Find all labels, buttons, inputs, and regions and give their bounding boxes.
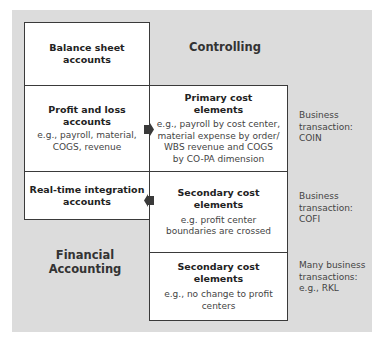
side-note-coin-line-2: transaction: (299, 122, 353, 134)
side-note-coin: Business transaction: COIN (299, 110, 353, 145)
side-note-coin-line-1: Business (299, 110, 353, 122)
balance-sheet-accounts-box: Balance sheet accounts (24, 22, 150, 86)
primary-cost-desc-1: e.g., payroll by cost center, (157, 119, 280, 131)
side-note-cofi-line-1: Business (299, 191, 353, 203)
primary-cost-title-2: elements (194, 104, 243, 116)
side-note-cofi: Business transaction: COFI (299, 191, 353, 226)
side-note-rkl-line-2: transactions: (299, 272, 365, 284)
financial-accounting-line-1: Financial (40, 248, 130, 262)
side-note-rkl-line-3: e.g., RKL (299, 283, 365, 295)
profit-loss-title-1: Profit and loss (48, 104, 125, 116)
balance-sheet-title-1: Balance sheet (49, 42, 124, 54)
secondary-cost-rkl-desc-2: centers (164, 301, 273, 313)
primary-cost-desc-3: WBS revenue and COGS (157, 142, 280, 154)
side-note-rkl: Many business transactions: e.g., RKL (299, 260, 365, 295)
secondary-cost-cofi-title-1: Secondary cost (178, 187, 260, 199)
profit-loss-title-2: accounts (63, 116, 111, 128)
profit-loss-desc-2: COGS, revenue (37, 142, 136, 154)
side-note-cofi-line-2: transaction: (299, 203, 353, 215)
balance-sheet-title-2: accounts (63, 54, 111, 66)
primary-cost-title-1: Primary cost (185, 92, 253, 104)
side-note-cofi-line-3: COFI (299, 214, 353, 226)
secondary-cost-cofi-title-2: elements (194, 199, 243, 211)
secondary-cost-elements-cofi-box: Secondary cost elements e.g. profit cent… (149, 171, 288, 253)
side-note-rkl-line-1: Many business (299, 260, 365, 272)
real-time-integration-accounts-box: Real-time integration accounts (24, 171, 150, 220)
real-time-title-2: accounts (63, 196, 111, 208)
primary-cost-desc-4: by CO-PA dimension (157, 154, 280, 166)
secondary-cost-rkl-title-1: Secondary cost (178, 261, 260, 273)
real-time-title-1: Real-time integration (30, 184, 145, 196)
controlling-label: Controlling (180, 40, 270, 54)
secondary-cost-cofi-desc-2: boundaries are crossed (166, 226, 271, 238)
side-note-coin-line-3: COIN (299, 133, 353, 145)
secondary-cost-elements-rkl-box: Secondary cost elements e.g., no change … (149, 252, 288, 321)
secondary-cost-rkl-title-2: elements (194, 273, 243, 285)
financial-accounting-label: Financial Accounting (40, 248, 130, 276)
secondary-cost-rkl-desc-1: e.g., no change to profit (164, 289, 273, 301)
secondary-cost-cofi-desc-1: e.g. profit center (166, 215, 271, 227)
primary-cost-desc-2: material expense by order/ (157, 131, 280, 143)
profit-loss-accounts-box: Profit and loss accounts e.g., payroll, … (24, 85, 150, 172)
primary-cost-elements-box: Primary cost elements e.g., payroll by c… (149, 85, 288, 172)
financial-accounting-line-2: Accounting (40, 262, 130, 276)
profit-loss-desc-1: e.g., payroll, material, (37, 130, 136, 142)
